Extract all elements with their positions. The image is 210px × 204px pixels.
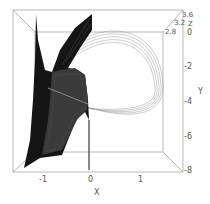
z-tick-label: 3.2 (174, 19, 185, 27)
x-tick-label: 0 (88, 176, 93, 184)
y-axis-label: Y (198, 88, 203, 96)
y-tick-label: -2 (184, 63, 192, 71)
y-tick-label: 0 (187, 29, 192, 37)
mesh-surface (24, 14, 92, 170)
y-tick-label: -6 (184, 133, 192, 141)
3d-plot (0, 0, 210, 204)
x-tick-label: 1 (138, 176, 143, 184)
z-tick-label: 3.6 (182, 11, 193, 19)
x-axis-label: X (94, 189, 99, 197)
y-tick-label: -4 (184, 98, 192, 106)
y-tick-label: -8 (184, 167, 192, 175)
z-tick-label: 2.8 (165, 28, 176, 36)
z-axis-label: Z (188, 20, 193, 28)
x-tick-label: -1 (39, 176, 47, 184)
